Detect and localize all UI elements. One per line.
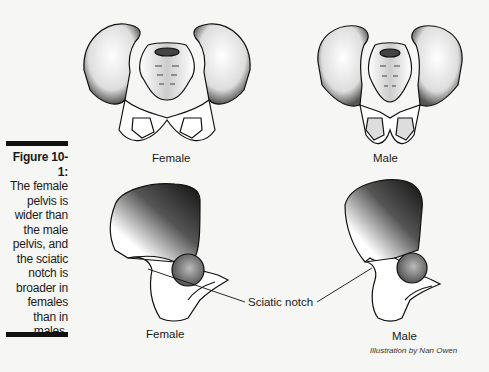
male-left-ilium: [318, 26, 368, 106]
female-left-ilium: [84, 24, 140, 104]
female-hip-side: [110, 184, 228, 321]
illustration-credit: Illustration by Nan Owen: [370, 346, 457, 355]
label-sciatic-notch: Sciatic notch: [248, 296, 313, 308]
label-female-front: Female: [152, 152, 190, 164]
label-male-front: Male: [373, 152, 398, 164]
male-right-ilium: [412, 26, 462, 106]
pelvis-illustrations: [0, 0, 489, 372]
female-pelvis-front: [84, 24, 250, 141]
male-pelvis-front: [318, 26, 462, 144]
male-acetabulum: [397, 253, 427, 283]
label-female-side: Female: [146, 328, 184, 340]
female-right-ilium: [194, 24, 250, 104]
male-hip-side: [345, 180, 440, 321]
label-male-side: Male: [392, 330, 417, 342]
male-ilium-side: [345, 180, 422, 262]
female-acetabulum: [172, 254, 204, 286]
callout-line-male: [317, 268, 372, 302]
female-ilium-side: [110, 184, 200, 262]
